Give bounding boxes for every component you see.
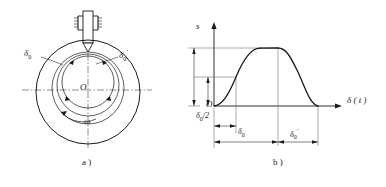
dimension-delta0-half <box>214 108 236 133</box>
rotation-arrowhead <box>61 111 67 116</box>
panel-b-displacement-diagram <box>186 0 386 187</box>
panel-a-caption: a ) <box>82 157 91 167</box>
y-axis-label: s <box>196 22 200 31</box>
follower-rod-tip <box>83 43 93 52</box>
x-axis-arrowhead <box>335 103 342 108</box>
guide-bracket-left <box>74 16 83 30</box>
dimension-delta0 <box>214 133 278 148</box>
label-delta0: δ0 <box>24 49 31 60</box>
label-center-O: O <box>80 83 87 92</box>
rotation-direction-arrow <box>61 112 96 122</box>
arc-marker-upper-left <box>69 60 74 65</box>
origin-label: O <box>206 100 213 109</box>
panel-b-caption: b ) <box>273 157 283 167</box>
x-axis-label: δ ( t ) <box>347 96 366 105</box>
guide-bracket-right <box>93 16 102 30</box>
panel-a-cam-mechanism <box>0 0 193 187</box>
dimension-label-delta0-half: δ0/2 <box>196 112 209 122</box>
dimension-label-delta0: δ0 <box>238 128 245 138</box>
dimension-label-delta0-prime: δ0' <box>290 128 298 140</box>
curve-fall-segment <box>260 48 318 106</box>
follower-rod <box>83 11 93 43</box>
figure-root: δ0 δ0' O ω a ) <box>0 0 386 187</box>
leader-line-delta0-prime <box>96 57 118 64</box>
label-delta0-prime: δ0' <box>119 49 127 62</box>
y-axis-arrowhead <box>211 22 216 29</box>
dimension-delta0-prime <box>278 140 318 143</box>
label-omega: ω <box>84 117 90 126</box>
